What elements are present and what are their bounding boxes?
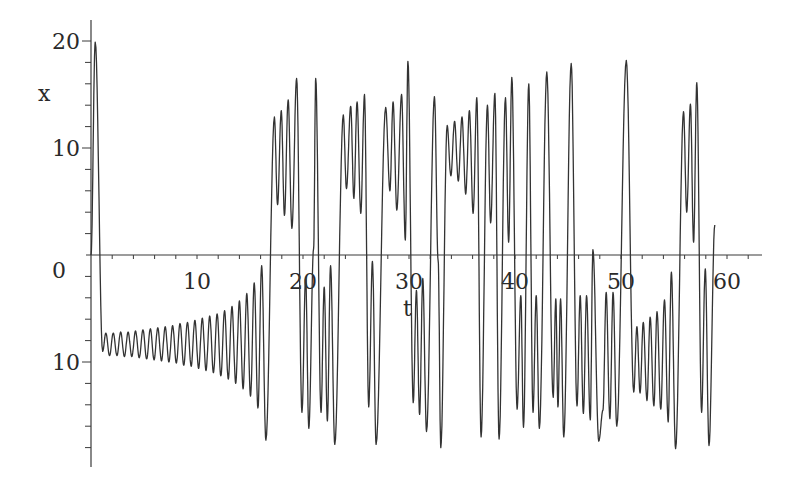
series-line-x-of-t [91,42,715,449]
y-axis-ticks: 201010 [52,29,91,448]
y-axis: 201010 [52,20,91,467]
y-tick-label: 10 [52,136,80,161]
x-tick-label: 10 [183,269,211,294]
x-tick-label: 60 [713,269,741,294]
y-tick-label: 20 [52,29,80,54]
y-axis-label: x [38,81,51,106]
chart-plot: 201010 102030405060 0 x t [0,0,798,499]
origin-label: 0 [52,258,66,283]
y-tick-label: 10 [52,350,80,375]
x-tick-label: 30 [395,269,423,294]
